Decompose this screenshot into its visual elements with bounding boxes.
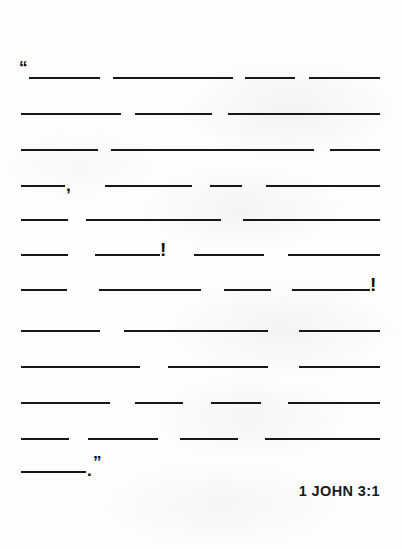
answer-blank[interactable] xyxy=(21,366,140,368)
answer-blank[interactable] xyxy=(180,438,238,440)
scripture-citation: 1 JOHN 3:1 xyxy=(299,483,380,499)
answer-blank[interactable] xyxy=(330,149,380,151)
exclamation-mark: ! xyxy=(370,275,376,294)
verse-line xyxy=(0,425,402,445)
answer-blank[interactable] xyxy=(299,330,380,332)
comma-mark: , xyxy=(66,177,71,194)
answer-blank[interactable] xyxy=(21,254,68,256)
answer-blank[interactable] xyxy=(29,77,100,79)
answer-blank[interactable] xyxy=(211,402,261,404)
answer-blank[interactable] xyxy=(266,185,380,187)
answer-blank[interactable] xyxy=(299,366,380,368)
answer-blank[interactable] xyxy=(21,438,69,440)
verse-line xyxy=(0,353,402,373)
open-quote-mark: “ xyxy=(19,59,28,76)
verse-line: ! xyxy=(0,276,402,296)
answer-blank[interactable] xyxy=(265,438,380,440)
answer-blank[interactable] xyxy=(111,149,314,151)
period-mark: . xyxy=(87,462,92,479)
verse-line xyxy=(0,100,402,120)
answer-blank[interactable] xyxy=(245,77,295,79)
answer-blank[interactable] xyxy=(21,149,98,151)
answer-blank[interactable] xyxy=(243,219,380,221)
answer-blank[interactable] xyxy=(210,185,242,187)
verse-line xyxy=(0,389,402,409)
answer-blank[interactable] xyxy=(21,289,67,291)
answer-blank[interactable] xyxy=(21,330,100,332)
answer-blank[interactable] xyxy=(95,254,160,256)
verse-line xyxy=(0,136,402,156)
answer-blank[interactable] xyxy=(86,219,221,221)
verse-line xyxy=(0,317,402,337)
verse-line: .” xyxy=(0,458,402,478)
exclamation-mark: ! xyxy=(160,240,166,259)
answer-blank[interactable] xyxy=(228,113,380,115)
answer-blank[interactable] xyxy=(135,402,183,404)
answer-blank[interactable] xyxy=(21,402,110,404)
answer-blank[interactable] xyxy=(288,402,380,404)
answer-blank[interactable] xyxy=(99,289,201,291)
verse-line: ! xyxy=(0,241,402,261)
answer-blank[interactable] xyxy=(292,289,370,291)
answer-blank[interactable] xyxy=(124,330,268,332)
answer-blank[interactable] xyxy=(21,471,86,473)
worksheet-page: “,!!.” 1 JOHN 3:1 xyxy=(0,0,402,549)
close-quote-mark: ” xyxy=(93,454,102,471)
answer-blank[interactable] xyxy=(288,254,380,256)
answer-blank[interactable] xyxy=(168,366,268,368)
answer-blank[interactable] xyxy=(309,77,380,79)
verse-line: , xyxy=(0,172,402,192)
verse-blank-lines-area: “,!!.” xyxy=(0,0,402,470)
answer-blank[interactable] xyxy=(21,185,65,187)
answer-blank[interactable] xyxy=(21,219,68,221)
answer-blank[interactable] xyxy=(21,113,121,115)
answer-blank[interactable] xyxy=(135,113,212,115)
answer-blank[interactable] xyxy=(88,438,158,440)
answer-blank[interactable] xyxy=(224,289,271,291)
verse-line xyxy=(0,206,402,226)
answer-blank[interactable] xyxy=(113,77,233,79)
verse-line: “ xyxy=(0,64,402,84)
answer-blank[interactable] xyxy=(105,185,192,187)
answer-blank[interactable] xyxy=(194,254,264,256)
